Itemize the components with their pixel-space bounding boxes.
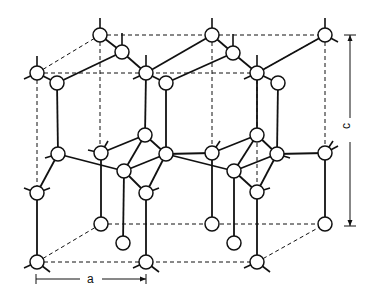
atom (250, 255, 264, 269)
atom (318, 146, 332, 160)
atom (227, 236, 241, 250)
atom (139, 66, 153, 80)
stub-bonds (24, 18, 338, 272)
atom (271, 76, 285, 90)
dimension-c (344, 35, 356, 226)
atom (205, 146, 219, 160)
atom (117, 164, 131, 178)
atom (205, 217, 219, 231)
atom (139, 186, 153, 200)
atom (205, 28, 219, 42)
atom (93, 28, 107, 42)
atom (250, 128, 264, 142)
atom (270, 147, 284, 161)
atom (318, 217, 332, 231)
atom (94, 217, 108, 231)
atom (226, 46, 240, 60)
atom (30, 186, 44, 200)
atom (50, 76, 64, 90)
atom (159, 147, 173, 161)
atom (51, 147, 65, 161)
lattice-svg: a c (0, 0, 368, 301)
atom (318, 28, 332, 42)
dimension-a-label: a (87, 272, 94, 286)
atom (116, 236, 130, 250)
atom (250, 185, 264, 199)
atoms (30, 28, 332, 269)
dimension-c-label: c (339, 123, 353, 129)
crystal-lattice-diagram: a c (0, 0, 368, 301)
atom (139, 255, 153, 269)
atom (138, 128, 152, 142)
atom (30, 255, 44, 269)
atom (94, 146, 108, 160)
atom (250, 66, 264, 80)
atom (115, 45, 129, 59)
atom (30, 66, 44, 80)
atom (159, 76, 173, 90)
atom (227, 164, 241, 178)
